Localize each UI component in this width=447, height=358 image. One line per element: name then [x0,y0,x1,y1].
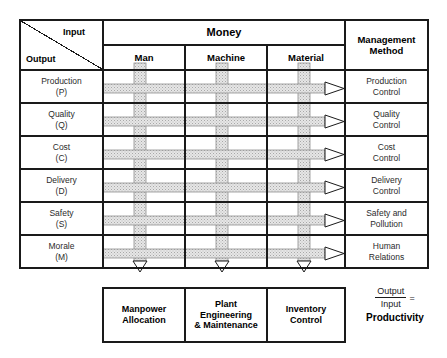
productivity-formula: Output Input = Productivity [345,286,445,323]
flow-bands-layer [103,63,344,272]
horizontal-flow-arrow-quality [103,115,344,128]
horizontal-flow-arrow-delivery [103,181,344,194]
output-axis-label: Output [26,54,56,64]
horizontal-flow-arrow-safety [103,214,344,227]
footer-boxes-grid [103,288,345,342]
vertical-flow-arrow-machine [215,63,229,272]
horizontal-flow-arrow-morale [103,247,344,260]
vertical-flow-arrow-man [133,63,147,272]
fraction-numerator-output: Output [375,286,406,296]
productivity-result-label: Productivity [366,312,424,323]
fraction-denominator-input: Input [379,299,403,309]
output-over-input-fraction: Output Input [375,286,406,309]
input-axis-label: Input [63,27,85,37]
horizontal-flow-arrow-cost [103,148,344,161]
horizontal-flow-arrow-production [103,82,344,95]
vertical-flow-arrow-material [297,63,311,272]
fraction-bar [375,297,406,298]
equals-sign: = [409,292,414,303]
